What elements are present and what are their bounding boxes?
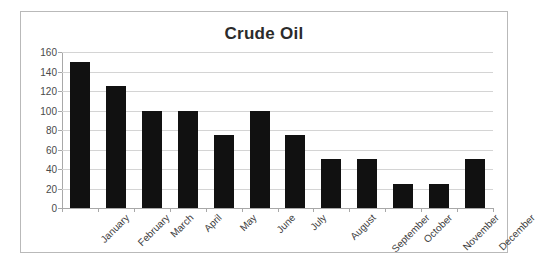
y-tick-label: 160 [40,47,57,58]
y-tick-mark [58,91,62,92]
y-tick-label: 0 [51,203,57,214]
y-tick-label: 40 [46,164,57,175]
y-tick-label: 20 [46,183,57,194]
y-tick-mark [58,150,62,151]
x-tick-label: August [348,212,378,242]
y-tick-mark [58,111,62,112]
y-tick-label: 100 [40,105,57,116]
x-tick-label: February [136,212,172,248]
y-tick-label: 140 [40,66,57,77]
y-tick-label: 120 [40,86,57,97]
x-tick-mark [457,208,458,212]
x-tick-mark [134,208,135,212]
y-axis-labels: 160140120100806040200 [21,52,57,208]
x-tick-mark [242,208,243,212]
y-tick-mark [58,208,62,209]
y-tick-mark [58,169,62,170]
y-tick-mark [58,189,62,190]
x-tick-mark [313,208,314,212]
x-tick-mark [170,208,171,212]
y-tick-label: 60 [46,144,57,155]
x-tick-label: April [202,212,224,234]
x-tick-label: November [461,212,501,252]
x-tick-mark [385,208,386,212]
x-tick-label: May [237,212,258,233]
y-tick-mark [58,72,62,73]
x-tick-mark [421,208,422,212]
y-tick-label: 80 [46,125,57,136]
x-tick-label: December [497,212,537,252]
x-tick-label: January [98,212,131,245]
x-tick-mark [206,208,207,212]
x-tick-label: March [168,212,195,239]
x-axis-labels: JanuaryFebruaryMarchAprilMayJuneJulyAugu… [62,12,493,252]
x-tick-mark [98,208,99,212]
x-tick-label: June [274,212,297,235]
y-tick-mark [58,52,62,53]
x-tick-mark [349,208,350,212]
x-tick-mark [62,208,63,212]
x-tick-mark [278,208,279,212]
y-tick-mark [58,130,62,131]
x-tick-label: July [309,212,329,232]
chart-frame: Crude Oil 160140120100806040200 JanuaryF… [20,11,508,253]
